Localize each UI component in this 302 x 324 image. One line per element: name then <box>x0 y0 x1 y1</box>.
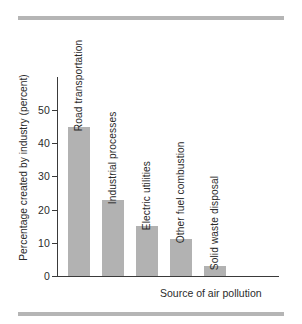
y-tick-label: 40 <box>26 138 50 149</box>
y-tick-40 <box>52 143 57 144</box>
bar <box>136 226 158 276</box>
bar-label: Electric utilities <box>142 161 152 230</box>
y-tick-20 <box>52 210 57 211</box>
bar <box>102 200 124 276</box>
y-tick-label: 30 <box>26 171 50 182</box>
y-axis-title: Percentage created by industry (percent) <box>18 68 29 268</box>
y-tick-label: 0 <box>26 271 50 282</box>
x-axis-title: Source of air pollution <box>160 288 262 299</box>
bar-chart-plot: 01020304050 Percentage created by indust… <box>0 0 302 324</box>
bar <box>68 127 90 276</box>
y-tick-50 <box>52 110 57 111</box>
y-tick-0 <box>52 276 57 277</box>
y-tick-label: 50 <box>26 105 50 116</box>
y-tick-label: 20 <box>26 205 50 216</box>
x-axis-line <box>57 276 279 277</box>
bar <box>170 239 192 276</box>
y-tick-label: 10 <box>26 238 50 249</box>
y-tick-30 <box>52 176 57 177</box>
bar-label: Road transportation <box>74 39 84 130</box>
bar-label: Other fuel combustion <box>176 142 186 244</box>
y-axis-line <box>57 77 58 277</box>
figure: 01020304050 Percentage created by indust… <box>0 0 302 324</box>
bar-label: Industrial processes <box>108 111 118 204</box>
y-tick-10 <box>52 243 57 244</box>
bottom-divider-rule <box>18 312 284 316</box>
bar-label: Solid waste disposal <box>210 176 220 270</box>
